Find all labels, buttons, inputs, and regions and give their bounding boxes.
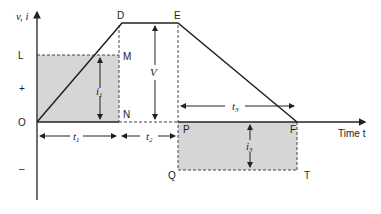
minus-label: – [19, 163, 25, 174]
y-axis-label: v, i [16, 10, 29, 22]
x-axis-label: Time t [338, 128, 366, 139]
voltage-current-diagram: v, i L + O – D E M N P F Q T V i1 i3 t1 … [0, 0, 381, 214]
shaded-region-i1 [37, 55, 119, 122]
plus-label: + [19, 83, 25, 94]
point-E-label: E [174, 10, 181, 21]
point-D-label: D [117, 10, 124, 21]
t2-label: t2 [146, 130, 153, 144]
point-F-label: F [290, 124, 296, 135]
point-P-label: P [183, 124, 190, 135]
V-label: V [150, 66, 158, 78]
point-T-label: T [304, 170, 310, 181]
point-N-label: N [123, 109, 130, 120]
shaded-region-i3 [178, 122, 297, 170]
point-M-label: M [123, 51, 131, 62]
t1-label: t1 [73, 130, 80, 144]
point-Q-label: Q [168, 170, 176, 181]
origin-label: O [18, 117, 26, 128]
t3-label: t3 [232, 100, 239, 114]
level-L-label: L [18, 50, 24, 61]
